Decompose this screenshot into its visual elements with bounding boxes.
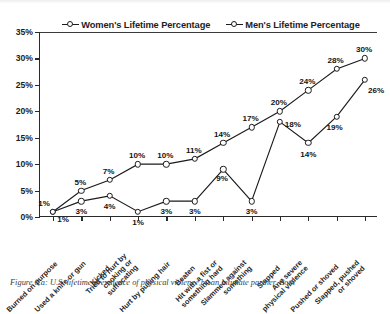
legend-item-label: Men's Lifetime Percentage [245, 20, 359, 30]
figure-caption: Figure 6.a: U.S. lifetime prevalence of … [10, 278, 382, 288]
data-point-label: 3% [161, 207, 173, 216]
y-tick-label: 5% [21, 186, 33, 196]
data-point-label: 19% [327, 122, 343, 131]
y-tick-label: 35% [16, 27, 33, 37]
open-circle-line-marker [226, 20, 243, 29]
data-point-label: 3% [76, 207, 88, 216]
data-point-label: 17% [242, 114, 258, 123]
y-tick-label: 20% [16, 106, 33, 116]
data-point-label: 1% [38, 198, 50, 207]
data-point-label: 7% [103, 167, 115, 176]
open-circle-line-marker [62, 20, 79, 29]
y-tick-label: 25% [16, 80, 33, 90]
data-point-label: 28% [328, 56, 344, 65]
data-point-label: 5% [75, 177, 87, 186]
data-point-label: 3% [246, 207, 258, 216]
data-point-label: 30% [356, 45, 372, 54]
legend-item-label: Women's Lifetime Percentage [81, 20, 210, 30]
legend-item-1: Men's Lifetime Percentage [226, 20, 359, 30]
x-category-label: Burned on purpose [5, 264, 55, 314]
data-point-label: 24% [299, 77, 315, 86]
data-point-label: 3% [189, 207, 201, 216]
data-point-label: 14% [300, 150, 316, 159]
chart-legend: Women's Lifetime PercentageMen's Lifetim… [66, 17, 356, 32]
data-point-label: 10% [129, 151, 145, 160]
y-tick-label: 15% [16, 133, 33, 143]
legend-item-0: Women's Lifetime Percentage [62, 20, 210, 30]
data-point-label: 18% [285, 119, 301, 128]
data-point-label: 9% [216, 174, 228, 183]
x-axis-category-labels: Burned on purposeUsed a knife or gunKick… [39, 218, 377, 270]
data-point-label: 4% [104, 201, 116, 210]
data-point-label: 20% [271, 98, 287, 107]
chart-figure: Women's Lifetime PercentageMen's Lifetim… [0, 3, 390, 268]
data-point-label: 11% [186, 145, 202, 154]
data-point-label: 26% [368, 85, 384, 94]
data-point-label: 14% [214, 130, 230, 139]
y-tick-label: 0% [21, 212, 33, 222]
data-point-label: 10% [157, 151, 173, 160]
plot-area: 0%5%10%15%20%25%30%35% 1%5%7%10%10%11%14… [39, 32, 377, 217]
series-line-0 [53, 58, 365, 211]
series-line-1 [53, 80, 365, 212]
y-tick-label: 30% [16, 53, 33, 63]
y-tick-label: 10% [16, 159, 33, 169]
